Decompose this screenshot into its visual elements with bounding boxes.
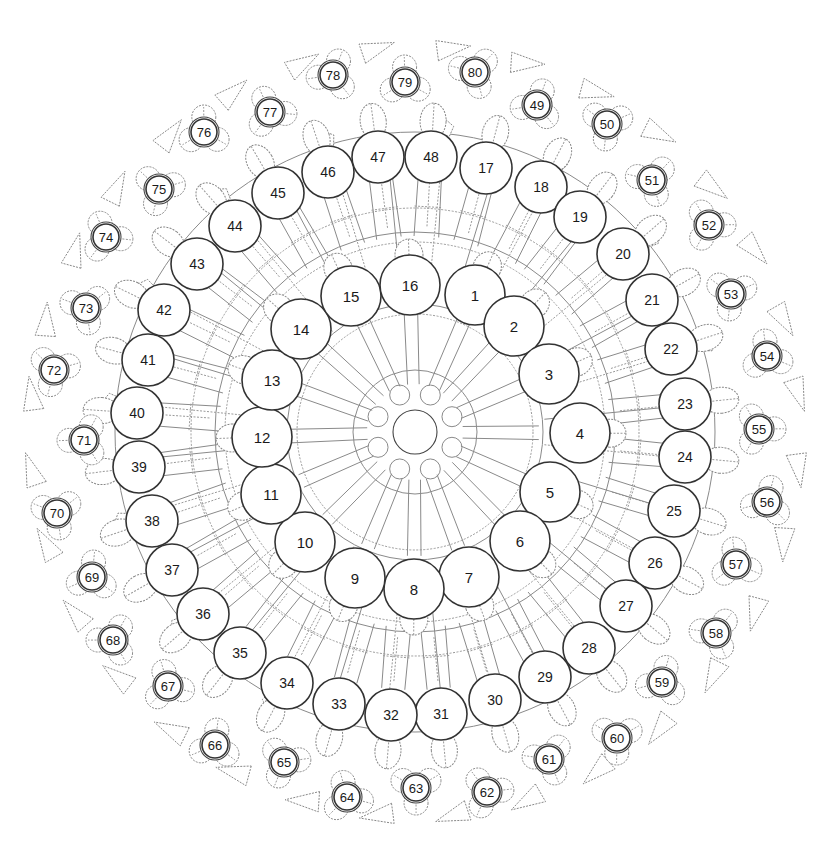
triangle-ornament	[35, 302, 55, 336]
trefoil-number: 72	[47, 363, 61, 378]
trefoil-number: 79	[398, 75, 412, 90]
medallion-8: 8	[384, 559, 444, 619]
medallion-number: 17	[478, 160, 494, 176]
medallion-23: 23	[659, 378, 711, 430]
medallion-number: 13	[264, 372, 281, 389]
triangle-ornament	[154, 722, 189, 746]
medallion-number: 25	[666, 503, 682, 519]
medallion-17: 17	[460, 142, 512, 194]
medallion-40: 40	[111, 387, 163, 439]
medallion-33: 33	[313, 678, 365, 730]
medallion-number: 44	[227, 218, 243, 234]
triangle-ornament	[641, 118, 676, 142]
medallion-number: 42	[156, 302, 172, 318]
trefoil-number: 71	[77, 433, 91, 448]
medallion-26: 26	[629, 537, 681, 589]
trefoil-number: 67	[161, 679, 175, 694]
trefoil-67: 67	[146, 660, 195, 709]
triangle-ornament	[359, 43, 394, 64]
triangle-ornament	[649, 711, 677, 744]
triangle-ornament	[784, 376, 805, 411]
trefoil-59: 59	[635, 656, 684, 705]
triangle-ornament	[511, 784, 545, 810]
medallion-number: 22	[663, 341, 679, 357]
trefoil-number: 65	[277, 755, 291, 770]
triangle-ornament	[153, 120, 181, 153]
trefoil-53: 53	[707, 273, 757, 321]
trefoil-number: 50	[600, 117, 614, 132]
medallion-number: 27	[618, 598, 634, 614]
medallion-number: 3	[545, 366, 553, 383]
hub-circle	[393, 410, 437, 454]
hub-satellite-circle	[420, 385, 440, 405]
medallion-30: 30	[469, 674, 521, 726]
trefoil-number: 60	[610, 731, 624, 746]
medallion-21: 21	[626, 274, 678, 326]
medallion-number: 41	[140, 352, 156, 368]
trefoil-65: 65	[263, 738, 311, 788]
medallion-48: 48	[405, 131, 457, 183]
medallion-number: 2	[510, 318, 518, 335]
trefoil-54: 54	[743, 329, 793, 377]
triangle-ornament	[63, 600, 93, 632]
medallion-number: 11	[263, 486, 279, 503]
medallion-number: 14	[293, 321, 310, 338]
medallion-36: 36	[177, 588, 229, 640]
medallion-29: 29	[519, 651, 571, 703]
trefoil-number: 62	[480, 785, 494, 800]
medallion-11: 11	[241, 464, 301, 524]
trefoil-number: 61	[542, 752, 556, 767]
medallion-45: 45	[252, 167, 304, 219]
triangle-ornament	[775, 527, 795, 561]
medallion-47: 47	[352, 131, 404, 183]
trefoil-number: 69	[85, 570, 99, 585]
trefoil-58: 58	[689, 609, 737, 659]
medallion-number: 16	[402, 277, 419, 294]
trefoil-52: 52	[689, 200, 736, 250]
trefoil-55: 55	[739, 404, 786, 454]
medallion-43: 43	[171, 238, 223, 290]
trefoil-number: 63	[409, 781, 423, 796]
medallion-number: 6	[516, 533, 524, 550]
medallion-38: 38	[126, 495, 178, 547]
medallion-31: 31	[415, 688, 467, 740]
trefoil-80: 80	[448, 49, 497, 98]
medallion-number: 26	[647, 555, 663, 571]
rose-window-diagram: 12345678910111213141516 1718192021222324…	[0, 0, 821, 845]
medallion-number: 36	[195, 606, 211, 622]
trefoil-number: 77	[263, 105, 277, 120]
trefoil-49: 49	[510, 79, 558, 129]
triangle-ornament	[103, 666, 136, 694]
medallion-number: 5	[546, 484, 554, 501]
trefoil-number: 75	[152, 182, 166, 197]
trefoil-number: 51	[645, 173, 659, 188]
hub-satellite-circle	[420, 459, 440, 479]
triangle-ornament	[436, 801, 471, 822]
medallion-37: 37	[146, 544, 198, 596]
trefoil-56: 56	[740, 476, 789, 525]
triangle-ornament	[61, 233, 81, 268]
medallion-15: 15	[321, 266, 381, 326]
medallion-number: 1	[471, 287, 479, 304]
trefoil-number: 74	[99, 230, 113, 245]
triangle-ornament	[786, 453, 806, 488]
trefoil-75: 75	[136, 167, 185, 216]
medallion-42: 42	[138, 284, 190, 336]
medallion-number: 32	[383, 707, 399, 723]
medallion-16: 16	[380, 255, 440, 315]
medallion-number: 4	[576, 425, 584, 442]
hub-satellite-circle	[442, 437, 462, 457]
medallion-number: 30	[487, 692, 503, 708]
triangle-ornament	[510, 52, 544, 72]
trefoil-number: 76	[197, 125, 211, 140]
trefoil-79: 79	[380, 55, 430, 102]
triangle-ornament	[705, 658, 729, 693]
medallion-number: 38	[144, 513, 160, 529]
medallion-22: 22	[645, 323, 697, 375]
triangle-ornament	[101, 171, 125, 206]
medallion-19: 19	[554, 191, 606, 243]
triangle-ornament	[749, 596, 769, 631]
medallion-number: 40	[129, 405, 145, 421]
trefoil-number: 66	[208, 738, 222, 753]
medallion-number: 45	[270, 185, 286, 201]
